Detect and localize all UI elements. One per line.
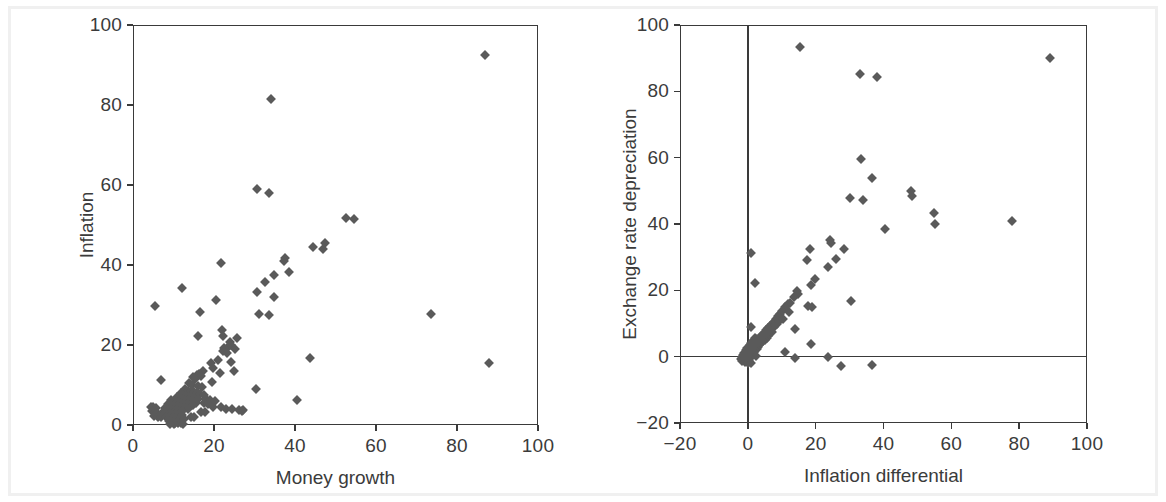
x-tick-label-right: −20 xyxy=(664,433,697,455)
y-tick-label-right: 100 xyxy=(637,14,669,36)
scatter-panel-inflation-differential-exchange-rate: −20020406080100−20020406080100 Inflation… xyxy=(583,0,1166,502)
x-tick-label-right: 0 xyxy=(742,433,753,455)
y-tick-left xyxy=(127,424,133,426)
y-tick-left xyxy=(127,264,133,266)
y-tick-label-right: 0 xyxy=(658,346,669,368)
x-tick-right xyxy=(1086,423,1088,429)
y-tick-left xyxy=(127,24,133,26)
x-tick-right xyxy=(951,423,953,429)
y-tick-label-left: 80 xyxy=(100,94,122,116)
x-tick-label-left: 60 xyxy=(365,435,387,457)
y-tick-label-right: −20 xyxy=(636,412,669,434)
x-axis-title-right: Inflation differential xyxy=(804,465,963,487)
y-tick-right xyxy=(674,422,680,424)
y-tick-label-left: 0 xyxy=(111,414,122,436)
y-tick-label-left: 100 xyxy=(90,14,122,36)
y-tick-right xyxy=(674,91,680,93)
x-tick-label-left: 0 xyxy=(128,435,139,457)
x-tick-label-left: 20 xyxy=(203,435,225,457)
y-tick-left xyxy=(127,104,133,106)
x-tick-left xyxy=(213,425,215,431)
y-tick-right xyxy=(674,223,680,225)
y-tick-right xyxy=(674,24,680,26)
x-tick-right xyxy=(1018,423,1020,429)
y-tick-left xyxy=(127,344,133,346)
y-tick-left xyxy=(127,184,133,186)
y-tick-label-right: 80 xyxy=(647,80,669,102)
x-tick-label-right: 80 xyxy=(1008,433,1030,455)
y-tick-right xyxy=(674,157,680,159)
scatter-panel-money-growth-inflation: 020406080100020406080100 Money growth In… xyxy=(0,0,583,502)
y-axis-title-right: Exchange rate depreciation xyxy=(619,108,641,339)
x-tick-label-right: 60 xyxy=(941,433,963,455)
y-tick-label-right: 20 xyxy=(647,279,669,301)
x-tick-left xyxy=(537,425,539,431)
x-tick-label-right: 40 xyxy=(873,433,895,455)
y-tick-label-left: 60 xyxy=(100,174,122,196)
plot-area-left xyxy=(133,25,538,425)
x-tick-left xyxy=(375,425,377,431)
x-tick-left xyxy=(132,425,134,431)
x-tick-right xyxy=(747,423,749,429)
x-tick-right xyxy=(883,423,885,429)
y-tick-label-left: 20 xyxy=(100,334,122,356)
y-tick-label-left: 40 xyxy=(100,254,122,276)
x-tick-label-left: 40 xyxy=(284,435,306,457)
x-tick-label-right: 20 xyxy=(805,433,827,455)
figure-root: 020406080100020406080100 Money growth In… xyxy=(0,0,1166,502)
y-axis-title-left: Inflation xyxy=(76,192,98,259)
y-tick-label-right: 60 xyxy=(647,147,669,169)
x-tick-label-left: 100 xyxy=(522,435,554,457)
x-tick-label-right: 100 xyxy=(1071,433,1103,455)
x-axis-title-left: Money growth xyxy=(276,467,395,489)
x-tick-left xyxy=(456,425,458,431)
x-tick-right xyxy=(815,423,817,429)
x-tick-left xyxy=(294,425,296,431)
x-tick-right xyxy=(679,423,681,429)
y-tick-label-right: 40 xyxy=(647,213,669,235)
x-tick-label-left: 80 xyxy=(446,435,468,457)
y-tick-right xyxy=(674,290,680,292)
y-tick-right xyxy=(674,356,680,358)
